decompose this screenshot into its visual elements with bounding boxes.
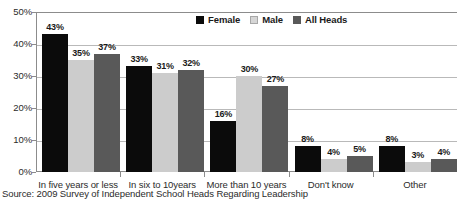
bar: 32% — [178, 70, 204, 172]
y-axis-tick-label: 50% — [0, 7, 32, 17]
bar-rect-allheads — [178, 70, 204, 172]
bar: 16% — [210, 121, 236, 172]
bar-rect-allheads — [94, 54, 120, 172]
bar: 27% — [262, 86, 288, 172]
bar-rect-allheads — [347, 156, 373, 172]
legend-item-female[interactable]: Female — [196, 15, 240, 25]
legend-swatch-icon — [250, 16, 258, 24]
source-note: Source: 2009 Survey of Independent Schoo… — [2, 188, 308, 199]
bar-rect-female — [126, 66, 152, 172]
bar-rect-male — [321, 159, 347, 172]
x-axis-tick-mark — [373, 172, 374, 177]
bar-rect-allheads — [431, 159, 457, 172]
bar-rect-female — [210, 121, 236, 172]
legend-swatch-icon — [293, 16, 301, 24]
x-axis-tick-mark — [204, 172, 205, 177]
bar-group: 16%30%27% — [204, 12, 288, 172]
legend-item-male[interactable]: Male — [250, 15, 283, 25]
bar: 31% — [152, 73, 178, 172]
bar: 37% — [94, 54, 120, 172]
y-axis-tick-label: 40% — [0, 39, 32, 49]
bar: 5% — [347, 156, 373, 172]
bar: 3% — [405, 162, 431, 172]
legend-label: All Heads — [305, 15, 347, 25]
x-axis-tick-mark — [289, 172, 290, 177]
chart-legend: FemaleMaleAll Heads — [196, 15, 347, 25]
bar-value-label: 30% — [229, 65, 269, 74]
bar-rect-allheads — [262, 86, 288, 172]
bar-value-label: 8% — [288, 135, 328, 144]
y-axis-tick-label: 0% — [0, 167, 32, 177]
bar-group: 8%4%5% — [289, 12, 373, 172]
legend-item-allheads[interactable]: All Heads — [293, 15, 347, 25]
y-axis-tick-label: 20% — [0, 103, 32, 113]
legend-swatch-icon — [196, 16, 204, 24]
bar-rect-male — [68, 60, 94, 172]
bar-value-label: 43% — [35, 23, 75, 32]
x-axis-tick-mark — [120, 172, 121, 177]
bars-layer: 43%35%37%33%31%32%16%30%27%8%4%5%8%3%4% — [36, 12, 457, 172]
bar: 35% — [68, 60, 94, 172]
bar: 33% — [126, 66, 152, 172]
bar-value-label: 8% — [372, 135, 412, 144]
bar: 4% — [321, 159, 347, 172]
bar-group: 43%35%37% — [36, 12, 120, 172]
y-axis: 0%10%20%30%40%50% — [0, 12, 34, 172]
legend-label: Female — [208, 15, 240, 25]
bar-group: 8%3%4% — [373, 12, 457, 172]
bar-value-label: 4% — [424, 148, 460, 157]
bar-rect-male — [236, 76, 262, 172]
bar-rect-male — [405, 162, 431, 172]
bar-rect-male — [152, 73, 178, 172]
legend-label: Male — [262, 15, 283, 25]
bar: 4% — [431, 159, 457, 172]
y-axis-tick-label: 30% — [0, 71, 32, 81]
bar: 30% — [236, 76, 262, 172]
bar-group: 33%31%32% — [120, 12, 204, 172]
y-axis-tick-label: 10% — [0, 135, 32, 145]
chart-figure: 0%10%20%30%40%50% 43%35%37%33%31%32%16%3… — [0, 0, 460, 203]
x-axis-category-label: Other — [373, 180, 457, 190]
